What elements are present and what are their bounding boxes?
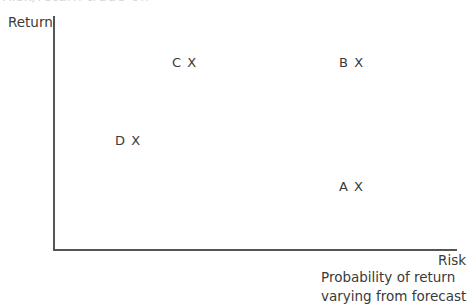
- x-axis-sublabel: Probability of return varying from forec…: [321, 268, 466, 306]
- point-label: D: [115, 133, 125, 148]
- clipped-header-text: Risk/return trade-off: [2, 0, 150, 4]
- data-point-a: AX: [339, 179, 363, 195]
- point-label: B: [339, 55, 348, 70]
- point-label: C: [172, 55, 181, 70]
- data-point-c: CX: [172, 55, 196, 71]
- y-axis-label: Return: [8, 13, 53, 31]
- x-axis-line: [53, 249, 457, 251]
- x-axis-label: Risk: [438, 251, 466, 269]
- x-axis-sublabel-line1: Probability of return: [321, 268, 466, 287]
- x-marker-icon: X: [131, 133, 140, 148]
- x-axis-sublabel-line2: varying from forecast: [321, 287, 466, 306]
- x-marker-icon: X: [354, 179, 363, 194]
- data-point-d: DX: [115, 133, 140, 149]
- y-axis-line: [53, 16, 55, 251]
- data-point-b: BX: [339, 55, 363, 71]
- point-label: A: [339, 179, 348, 194]
- x-marker-icon: X: [187, 55, 196, 70]
- x-marker-icon: X: [354, 55, 363, 70]
